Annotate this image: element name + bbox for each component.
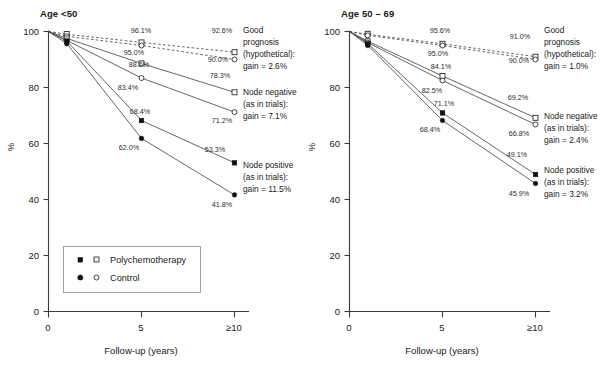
ann-nn-line-2-left: (as in trials): <box>243 99 288 109</box>
ann-nn-line-2-right: (as in trials): <box>544 123 589 133</box>
annotation-node-negative-left: Node negative (as in trials): gain = 7.1… <box>243 87 297 121</box>
legend-left: Polychemotherapy Control <box>64 247 201 293</box>
ann-np-line-2-right: (as in trials): <box>544 177 589 187</box>
ann-gp-line-1-left: Good <box>243 25 264 35</box>
y-tick-label-100-right: 100 <box>324 26 340 37</box>
point-label-np-ctrl-10-right: 45.9% <box>509 189 530 198</box>
point-label-nn-ctrl-10-right: 66.8% <box>509 129 530 138</box>
legend-marker-filled-square <box>78 258 83 263</box>
x-tick-label-0-left: 0 <box>45 322 50 333</box>
markers-year1-left <box>64 32 69 47</box>
y-tick-label-60-left: 60 <box>28 138 39 149</box>
ann-nn-line-3-right: gain = 2.4% <box>544 135 589 145</box>
point-label-gp-poly-5-right: 95.6% <box>430 26 451 35</box>
y-tick-label-20-left: 20 <box>28 250 39 261</box>
figure-root: Age <50 100 80 60 40 20 0 % <box>0 0 603 373</box>
point-label-nn-poly-10-left: 78.3% <box>210 71 231 80</box>
annotation-good-prognosis-left: Good prognosis (hypothetical): gain = 2.… <box>243 25 295 71</box>
ann-nn-line-1-right: Node negative <box>544 111 598 121</box>
ann-gp-line-2-left: prognosis <box>243 37 279 47</box>
point-label-np-poly-5-left: 68.4% <box>130 107 151 116</box>
ann-gp-line-4-left: gain = 2.6% <box>243 61 288 71</box>
chart-svg-left: 100 80 60 40 20 0 % 0 5 ≥10 Follow-up (y… <box>0 0 302 373</box>
point-label-nn-ctrl-5-right: 82.5% <box>422 86 443 95</box>
point-label-nn-ctrl-5-left: 83.4% <box>118 83 139 92</box>
point-label-np-ctrl-5-left: 62.0% <box>119 143 140 152</box>
point-label-nn-ctrl-10-left: 71.2% <box>212 116 233 125</box>
markers-year1-right <box>365 31 370 48</box>
y-tick-label-40-left: 40 <box>28 194 39 205</box>
ann-np-line-2-left: (as in trials): <box>243 172 288 182</box>
ann-nn-line-1-left: Node negative <box>243 87 297 97</box>
ann-np-line-1-left: Node positive <box>243 160 294 170</box>
legend-label-polychemotherapy: Polychemotherapy <box>110 255 186 265</box>
point-label-np-poly-5-right: 71.1% <box>434 99 455 108</box>
x-axis-ticks-right <box>350 312 536 318</box>
point-label-nn-poly-10-right: 69.2% <box>508 93 529 102</box>
y-axis-title-left: % <box>5 142 16 151</box>
ann-np-line-3-right: gain = 3.2% <box>544 189 589 199</box>
point-label-gp-poly-10-left: 92.6% <box>212 26 233 35</box>
point-label-nn-poly-5-right: 84.1% <box>431 62 452 71</box>
y-tick-label-0-left: 0 <box>34 306 39 317</box>
ann-gp-line-2-right: prognosis <box>544 37 580 47</box>
point-label-gp-ctrl-5-left: 95.0% <box>124 48 145 57</box>
legend-marker-open-square <box>94 257 99 262</box>
axis-lines-right <box>350 31 551 312</box>
ann-np-line-3-left: gain = 11.5% <box>243 184 292 194</box>
annotation-node-negative-right: Node negative (as in trials): gain = 2.4… <box>544 111 598 145</box>
point-label-gp-ctrl-10-right: 90.0% <box>509 56 530 65</box>
markers-year10-left <box>232 50 237 198</box>
ann-np-line-1-right: Node positive <box>544 165 595 175</box>
ann-gp-line-4-right: gain = 1.0% <box>544 61 589 71</box>
point-label-np-ctrl-5-right: 68.4% <box>420 125 441 134</box>
y-tick-label-0-right: 0 <box>335 306 340 317</box>
point-label-np-ctrl-10-left: 41.8% <box>212 200 233 209</box>
y-tick-label-60-right: 60 <box>329 138 340 149</box>
ann-nn-line-3-left: gain = 7.1% <box>243 111 288 121</box>
chart-panel-age-under-50: Age <50 100 80 60 40 20 0 % <box>0 0 302 373</box>
legend-label-control: Control <box>110 273 140 283</box>
point-label-np-poly-10-left: 53.3% <box>205 145 226 154</box>
point-label-gp-poly-10-right: 91.0% <box>510 32 531 41</box>
ann-gp-line-3-right: (hypothetical): <box>544 49 596 59</box>
x-axis-ticks-left <box>49 312 235 318</box>
x-axis-title-left: Follow-up (years) <box>104 345 177 356</box>
x-tick-label-5-left: 5 <box>138 322 143 333</box>
y-tick-label-40-right: 40 <box>329 194 340 205</box>
x-tick-label-10-left: ≥10 <box>226 322 242 333</box>
markers-year10-right <box>533 54 538 186</box>
y-tick-label-20-right: 20 <box>329 250 340 261</box>
annotation-good-prognosis-right: Good prognosis (hypothetical): gain = 1.… <box>544 25 596 71</box>
chart-svg-right: 100 80 60 40 20 0 % 0 5 ≥10 Follow-up (y… <box>301 0 603 373</box>
legend-marker-open-circle <box>94 275 99 280</box>
ann-gp-line-1-right: Good <box>544 25 565 35</box>
point-label-gp-poly-5-left: 96.1% <box>131 26 152 35</box>
y-axis-ticks-left <box>44 32 49 312</box>
x-tick-label-5-right: 5 <box>439 322 444 333</box>
point-label-gp-ctrl-10-left: 90.0% <box>208 55 229 64</box>
annotation-node-positive-left: Node positive (as in trials): gain = 11.… <box>243 160 294 194</box>
point-label-gp-ctrl-5-right: 95.0% <box>428 49 449 58</box>
point-label-np-poly-10-right: 49.1% <box>507 150 528 159</box>
y-axis-title-right: % <box>306 142 317 151</box>
x-tick-label-0-right: 0 <box>346 322 351 333</box>
ann-gp-line-3-left: (hypothetical): <box>243 49 295 59</box>
y-tick-label-80-right: 80 <box>329 82 340 93</box>
chart-panel-age-50-69: Age 50 – 69 100 80 60 40 20 0 % <box>301 0 603 373</box>
annotation-node-positive-right: Node positive (as in trials): gain = 3.2… <box>544 165 595 199</box>
legend-marker-filled-circle <box>78 275 83 280</box>
x-tick-label-10-right: ≥10 <box>527 322 543 333</box>
y-axis-ticks-right <box>345 32 350 312</box>
y-tick-label-80-left: 80 <box>28 82 39 93</box>
point-label-nn-poly-5-left: 88.6% <box>129 60 150 69</box>
x-axis-title-right: Follow-up (years) <box>405 345 478 356</box>
y-tick-label-100-left: 100 <box>23 26 39 37</box>
